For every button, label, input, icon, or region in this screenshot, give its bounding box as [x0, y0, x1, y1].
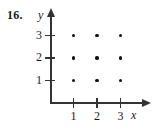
x-tick-label: 1 — [67, 110, 81, 123]
y-tick-label: 2 — [28, 51, 42, 64]
data-point — [119, 56, 122, 59]
data-point — [72, 79, 75, 82]
data-point — [72, 56, 75, 59]
x-tick-label: 2 — [90, 110, 104, 123]
x-tick-mark — [73, 98, 74, 108]
y-axis-arrow-icon — [47, 8, 55, 17]
y-tick-mark — [45, 35, 55, 36]
scatter-plot: y x 123 123 — [0, 0, 153, 132]
data-point — [95, 56, 98, 59]
y-tick-mark — [45, 80, 55, 81]
x-axis-arrow-icon — [142, 99, 151, 107]
x-tick-label: 3 — [114, 110, 128, 123]
data-point — [119, 79, 122, 82]
x-tick-mark — [120, 98, 121, 108]
y-axis-line — [50, 16, 52, 104]
x-axis-label: x — [131, 109, 136, 122]
y-tick-label: 3 — [28, 29, 42, 42]
y-tick-label: 1 — [28, 74, 42, 87]
data-point — [95, 79, 98, 82]
data-point — [119, 34, 122, 37]
y-axis-label: y — [38, 9, 43, 22]
x-tick-mark — [96, 98, 97, 108]
y-tick-mark — [45, 57, 55, 58]
data-point — [72, 34, 75, 37]
exercise-figure: 16. y x 123 123 — [0, 0, 153, 132]
data-point — [95, 34, 98, 37]
